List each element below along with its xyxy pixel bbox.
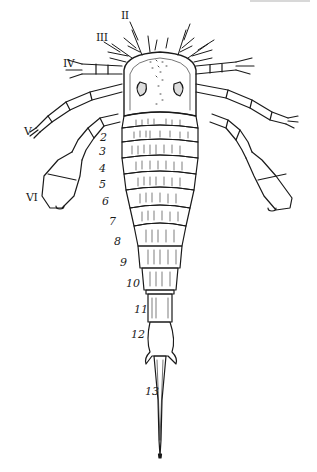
segment-label-4: 4 (99, 163, 106, 174)
swimming-leg-vi-right (210, 114, 292, 211)
segment-label-7: 7 (109, 216, 116, 227)
metastoma-segment-12 (146, 322, 177, 364)
segment-hatching (132, 119, 188, 318)
segment-label-6: 6 (102, 196, 109, 207)
leg-v (30, 84, 298, 138)
segment-label-10: 10 (126, 278, 140, 289)
appendage-label-vi: VI (26, 192, 37, 203)
segment-label-5: 5 (99, 179, 106, 190)
appendage-label-iii: III (96, 32, 108, 43)
segment-label-3: 3 (99, 146, 106, 157)
carapace (124, 52, 196, 116)
body-segments (122, 112, 198, 322)
segment-label-13: 13 (145, 386, 159, 397)
appendage-label-ii: II (121, 10, 129, 21)
carapace-stipple (150, 60, 167, 104)
segment-label-2: 2 (100, 132, 107, 143)
eurypterid-illustration (0, 0, 317, 472)
segment-label-12: 12 (131, 329, 145, 340)
left-eye (137, 82, 146, 96)
appendage-label-v: V (24, 126, 31, 137)
segment-label-11: 11 (134, 304, 148, 315)
anterior-bristles (104, 22, 214, 62)
segment-label-8: 8 (114, 236, 121, 247)
leg-iv (66, 58, 254, 78)
appendage-label-iv: IV (63, 58, 74, 69)
segment-label-9: 9 (120, 257, 127, 268)
telson-spine-13 (154, 356, 166, 456)
right-eye (174, 82, 183, 96)
